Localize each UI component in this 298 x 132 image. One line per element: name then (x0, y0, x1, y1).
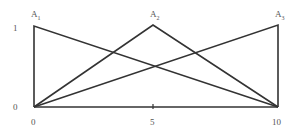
label-a1: A1 (31, 10, 41, 21)
y-tick-0: 0 (13, 103, 18, 112)
y-tick-1: 1 (13, 24, 18, 33)
x-tick-label-0: 0 (31, 118, 36, 127)
x-tick-label-10: 10 (272, 118, 281, 127)
x-tick-label-5: 5 (150, 118, 155, 127)
label-a2: A2 (150, 10, 160, 21)
membership-chart (0, 0, 298, 132)
label-a3: A3 (275, 10, 285, 21)
